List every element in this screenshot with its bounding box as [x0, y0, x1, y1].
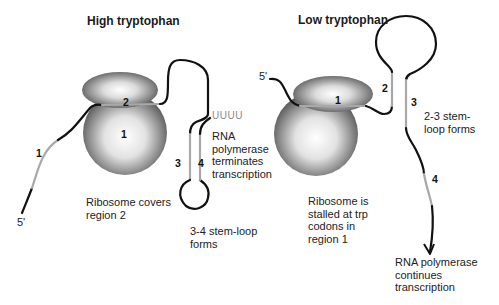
- annotation-line: terminates: [212, 155, 272, 168]
- annotation-line: loop forms: [424, 123, 475, 136]
- annotation-line: Ribosome is: [308, 195, 369, 208]
- poly-u-label: UUUU: [212, 110, 243, 121]
- annotation-line: codons in: [308, 220, 369, 233]
- annotation-line: RNA: [212, 130, 272, 143]
- annotation-line: region 2: [86, 209, 171, 222]
- annotation-line: 3-4 stem-loop: [190, 225, 257, 238]
- annotation-line: transcription: [212, 168, 272, 181]
- high-trp-ribosome: [82, 72, 167, 175]
- annotation-line: 2-3 stem-: [424, 110, 475, 123]
- annotation-line: continues: [395, 269, 478, 282]
- annotation-line: RNA polymerase: [395, 256, 478, 269]
- low-trp-title: Low tryptophan: [298, 13, 388, 27]
- stem-loop-3-4-annotation: 3-4 stem-loop forms: [190, 225, 257, 250]
- annotation-line: Ribosome covers: [86, 196, 171, 209]
- low-region-2-label: 2: [382, 82, 388, 94]
- low-region-4-label: 4: [432, 173, 438, 185]
- continues-annotation: RNA polymerase continues transcription: [395, 256, 478, 294]
- low-trp-ribosome: [274, 76, 373, 176]
- ribosome-stalled-annotation: Ribosome is stalled at trp codons in reg…: [308, 195, 369, 245]
- low-region-1-label: 1: [335, 94, 341, 106]
- high-region-1-strand-label: 1: [36, 147, 42, 159]
- ribosome-covers-annotation: Ribosome covers region 2: [86, 196, 171, 221]
- high-region-2-label: 2: [123, 96, 129, 108]
- low-five-prime-label: 5': [259, 70, 267, 83]
- high-region-4-label: 4: [198, 157, 204, 169]
- low-region-3-label: 3: [411, 96, 417, 108]
- ribosome-small-subunit: [82, 72, 158, 108]
- high-trp-title: High tryptophan: [87, 14, 180, 28]
- annotation-line: region 1: [308, 233, 369, 246]
- high-region-3-label: 3: [175, 157, 181, 169]
- annotation-line: polymerase: [212, 143, 272, 156]
- annotation-line: forms: [190, 238, 257, 251]
- high-five-prime-label: 5': [17, 216, 25, 229]
- annotation-line: transcription: [395, 281, 478, 294]
- stem-loop-2-3-annotation: 2-3 stem- loop forms: [424, 110, 475, 135]
- terminator-annotation: RNA polymerase terminates transcription: [212, 130, 272, 180]
- arrow-down-icon: [424, 244, 434, 254]
- high-region-1-ribosome-label: 1: [121, 128, 127, 140]
- annotation-line: stalled at trp: [308, 208, 369, 221]
